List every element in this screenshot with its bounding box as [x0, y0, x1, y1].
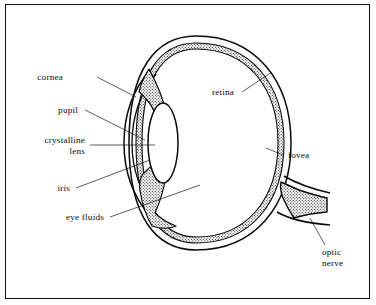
optic-nerve-structure — [277, 176, 330, 225]
label-fovea: fovea — [288, 150, 309, 160]
leader-optic — [310, 218, 325, 245]
eye-diagram-figure: cornea pupil crystalline lens iris eye f… — [0, 0, 376, 305]
leader-cornea — [97, 77, 136, 97]
label-pupil: pupil — [58, 105, 78, 115]
label-optic-nerve-line2: nerve — [322, 258, 343, 268]
label-crystalline-lens-line2: lens — [69, 146, 85, 156]
crystalline-lens-structure — [148, 103, 178, 183]
label-retina: retina — [212, 87, 234, 97]
label-iris: iris — [57, 183, 70, 193]
eye-cross-section-illustration: cornea pupil crystalline lens iris eye f… — [0, 0, 376, 305]
label-cornea: cornea — [37, 72, 63, 82]
label-eye-fluids: eye fluids — [66, 212, 104, 222]
label-crystalline-lens-line1: crystalline — [45, 135, 85, 145]
label-optic-nerve-line1: optic — [322, 247, 341, 257]
